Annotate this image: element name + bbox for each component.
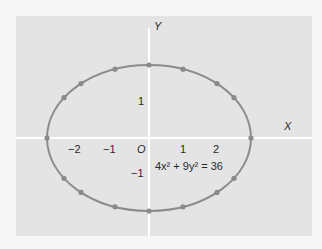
origin-label: O	[137, 144, 146, 155]
data-point	[44, 135, 49, 140]
ellipse-plot	[0, 0, 322, 249]
data-point	[180, 67, 185, 72]
data-point	[112, 67, 117, 72]
y-tick-1: 1	[138, 96, 144, 107]
data-point	[112, 204, 117, 209]
data-point	[231, 95, 236, 100]
data-point	[146, 62, 151, 67]
data-point	[214, 190, 219, 195]
y-axis-label: Y	[154, 21, 161, 32]
data-point	[78, 81, 83, 86]
y-tick-neg1: −1	[131, 168, 144, 179]
x-tick-neg1: −1	[103, 144, 116, 155]
equation-label: 4x² + 9y² = 36	[155, 161, 223, 172]
data-point	[61, 176, 66, 181]
data-point	[231, 176, 236, 181]
x-tick-neg2: −2	[68, 144, 81, 155]
x-tick-1: 1	[180, 144, 186, 155]
data-point	[78, 190, 83, 195]
data-point	[146, 208, 151, 213]
data-point	[180, 204, 185, 209]
data-point	[214, 81, 219, 86]
x-tick-2: 2	[213, 144, 219, 155]
x-axis-label: X	[284, 121, 291, 132]
data-point	[61, 95, 66, 100]
data-point	[248, 135, 253, 140]
